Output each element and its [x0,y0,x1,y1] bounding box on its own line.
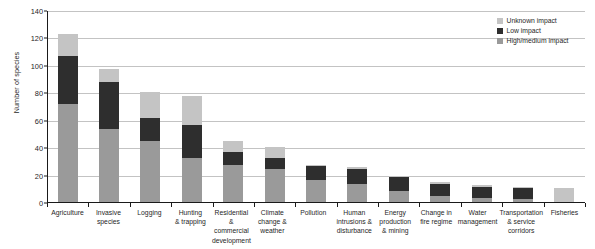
bar-group[interactable] [171,11,212,203]
x-axis-label: Logging [129,208,170,245]
bar-group[interactable] [88,11,129,203]
bar-group[interactable] [295,11,336,203]
stacked-bar[interactable] [306,165,326,203]
y-axis-tick-label: 100 [31,61,43,70]
stacked-bar[interactable] [223,141,243,203]
x-axis-tick-mark [337,203,338,207]
bar-segment[interactable] [140,118,160,141]
x-axis-label: Change infire regime [416,208,457,245]
bar-segment[interactable] [513,188,533,199]
bar-segment[interactable] [182,96,202,125]
bar-group[interactable] [378,11,419,203]
x-axis-tick-mark [295,203,296,207]
stacked-bar[interactable] [513,187,533,203]
x-axis-label-line: Logging [130,208,169,217]
x-axis-label-line: Hunting [171,208,210,217]
y-axis-title: Number of species [12,23,21,143]
x-axis-tick-mark [213,203,214,207]
bar-group[interactable] [337,11,378,203]
x-axis-tick-mark [544,203,545,207]
legend-item[interactable]: High/medium impact [497,37,568,45]
bar-segment[interactable] [223,141,243,152]
stacked-bar[interactable] [265,147,285,203]
x-axis-tick-marks [47,203,585,207]
x-axis-tick-mark [585,203,586,207]
stacked-bar[interactable] [554,188,574,203]
stacked-bar[interactable] [430,182,450,203]
bar-segment[interactable] [182,125,202,158]
bar-segment[interactable] [58,104,78,203]
bar-segment[interactable] [265,169,285,203]
x-axis-tick-mark [461,203,462,207]
stacked-bar[interactable] [58,34,78,203]
x-axis-label-line: development [212,236,251,245]
bar-segment[interactable] [140,92,160,118]
bar-segment[interactable] [58,34,78,56]
y-axis-tick-label: 120 [31,34,43,43]
legend-item[interactable]: Unknown impact [497,17,568,25]
y-axis-tick-label: 140 [31,7,43,16]
x-axis-label: Energyproduction& mining [375,208,416,245]
bar-segment[interactable] [223,152,243,164]
x-axis-tick-mark [130,203,131,207]
x-axis-label-line: Pollution [294,208,333,217]
bar-segment[interactable] [347,184,367,203]
x-axis-label-line: Change in [417,208,456,217]
bar-segment[interactable] [265,158,285,169]
bar-group[interactable] [420,11,461,203]
x-axis-label-line: Agriculture [48,208,87,217]
bar-segment[interactable] [430,184,450,196]
bar-segment[interactable] [182,158,202,203]
bar-segment[interactable] [99,129,119,203]
bar-segment[interactable] [306,166,326,180]
bar-group[interactable] [213,11,254,203]
x-axis-label-line: commercial [212,226,251,235]
y-axis-tick-label: 0 [39,199,43,208]
bar-group[interactable] [130,11,171,203]
legend-swatch-icon [497,28,503,34]
x-axis-label-line: corridors [499,226,543,235]
stacked-bar[interactable] [389,176,409,203]
x-axis-tick-mark [419,203,420,207]
bar-segment[interactable] [99,69,119,83]
bar-segment[interactable] [554,188,574,203]
stacked-bar[interactable] [99,69,119,203]
y-axis-tick-label: 40 [35,144,43,153]
x-axis-label-line: change & [253,217,292,226]
x-axis-label: Humanintrusions &disturbance [334,208,375,245]
x-axis-label-line: Transportation [499,208,543,217]
bar-segment[interactable] [99,82,119,129]
stacked-bar[interactable] [140,92,160,203]
bar-segment[interactable] [58,56,78,104]
bar-segment[interactable] [140,141,160,203]
bar-segment[interactable] [389,177,409,191]
x-axis-labels: AgricultureInvasivespeciesLoggingHunting… [47,208,585,245]
x-axis-label-line: Invasive [89,208,128,217]
x-axis-label-line: disturbance [335,226,374,235]
bar-segment[interactable] [472,187,492,198]
x-axis-label-line: Fisheries [545,208,584,217]
bar-group[interactable] [47,11,88,203]
bar-group[interactable] [254,11,295,203]
y-axis-line [47,11,48,203]
x-axis-tick-mark [254,203,255,207]
legend-item[interactable]: Low impact [497,27,568,35]
x-axis-label-line: & trapping [171,217,210,226]
stacked-bar[interactable] [472,185,492,203]
stacked-bar[interactable] [182,96,202,203]
bar-segment[interactable] [347,169,367,184]
legend-label: Low impact [507,27,541,35]
bar-segment[interactable] [223,165,243,203]
bar-segment[interactable] [306,180,326,203]
x-axis-label-line: Water [458,208,498,217]
x-axis-tick-mark [171,203,172,207]
x-axis-label: Fisheries [544,208,585,245]
y-axis-tick-label: 80 [35,89,43,98]
x-axis-label: Transportation& servicecorridors [498,208,544,245]
stacked-bar[interactable] [347,167,367,203]
x-axis-label-line: Human [335,208,374,217]
x-axis-label-line: intrusions & [335,217,374,226]
bar-segment[interactable] [265,147,285,158]
x-axis-label: Climatechange &weather [252,208,293,245]
x-axis-tick-mark [502,203,503,207]
